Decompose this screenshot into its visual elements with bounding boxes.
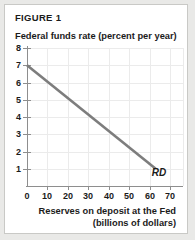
reserve-demand-curve bbox=[0, 0, 195, 240]
rd-curve-label: RD bbox=[152, 167, 166, 178]
x-axis-title: Reserves on deposit at the Fed (billions… bbox=[14, 205, 176, 229]
x-axis-title-line2: (billions of dollars) bbox=[14, 217, 176, 229]
chart-plot-area: 8 7 6 5 4 3 2 1 0 10 20 30 40 50 60 70 R… bbox=[0, 0, 195, 240]
rd-curve-segment bbox=[27, 65, 156, 169]
x-axis-title-line1: Reserves on deposit at the Fed bbox=[14, 205, 176, 217]
